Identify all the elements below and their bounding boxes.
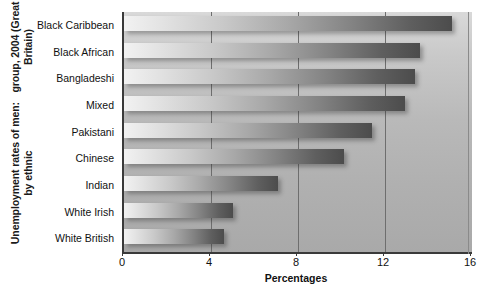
bar <box>124 203 233 218</box>
chart-figure: Unemployment rates of men: by ethnic gro… <box>0 0 496 291</box>
category-label: Black African <box>53 39 114 66</box>
category-label: White Irish <box>64 199 114 226</box>
bar <box>124 96 405 111</box>
category-label: Indian <box>85 172 114 199</box>
plot-area <box>122 12 472 254</box>
category-axis-labels: Black CaribbeanBlack AfricanBangladeshiM… <box>26 12 118 252</box>
x-tick-label: 16 <box>464 256 476 268</box>
plot-right-edge <box>468 12 469 254</box>
category-label: Black Caribbean <box>37 12 114 39</box>
category-label: Bangladeshi <box>56 65 114 92</box>
x-tick-label: 4 <box>206 256 212 268</box>
bar-row <box>124 92 472 119</box>
bar <box>124 229 224 244</box>
category-label: Chinese <box>75 145 114 172</box>
bar-row <box>124 225 472 252</box>
bar <box>124 149 344 164</box>
bar <box>124 123 372 138</box>
category-label: Pakistani <box>71 119 114 146</box>
bar <box>124 16 452 31</box>
bar-row <box>124 199 472 226</box>
category-label: White British <box>55 225 114 252</box>
bar-row <box>124 39 472 66</box>
bar-row <box>124 12 472 39</box>
x-tick-label: 0 <box>119 256 125 268</box>
x-tick-label: 8 <box>293 256 299 268</box>
bar <box>124 43 420 58</box>
bar-row <box>124 172 472 199</box>
x-axis-title: Percentages <box>122 272 470 284</box>
bar-row <box>124 65 472 92</box>
bar-row <box>124 119 472 146</box>
x-tick-label: 12 <box>377 256 389 268</box>
bar <box>124 176 278 191</box>
category-label: Mixed <box>86 92 114 119</box>
bar <box>124 69 415 84</box>
bar-row <box>124 145 472 172</box>
